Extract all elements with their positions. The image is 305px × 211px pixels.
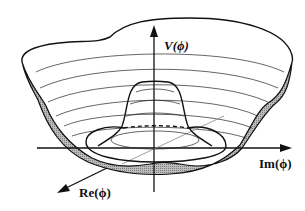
re-axis-arrow bbox=[57, 184, 70, 193]
im-axis-label: Im(ϕ) bbox=[259, 157, 292, 170]
potential-surface bbox=[0, 0, 305, 211]
im-axis-arrow bbox=[280, 144, 292, 152]
vacuum-ring bbox=[86, 127, 226, 162]
re-axis-label: Re(ϕ) bbox=[79, 186, 111, 199]
mexican-hat-diagram: V(ϕ) Im(ϕ) Re(ϕ) bbox=[0, 0, 305, 211]
v-axis-arrow bbox=[150, 25, 158, 37]
bowl-rim bbox=[22, 18, 293, 62]
v-axis-label: V(ϕ) bbox=[164, 39, 189, 52]
